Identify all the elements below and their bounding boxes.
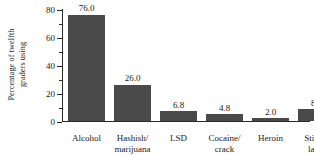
x-axis-line bbox=[62, 121, 310, 122]
y-tick-label-0: 0 bbox=[51, 117, 56, 126]
x-category-label-lsd: LSD bbox=[170, 133, 187, 144]
bar-alcohol bbox=[68, 15, 105, 121]
x-category-label-stimulants: Stimu- lants bbox=[304, 133, 314, 154]
x-category-label-cocaine-crack-line-2: crack bbox=[209, 144, 241, 155]
plot-area: 80 60 40 20 0 bbox=[62, 9, 310, 122]
y-axis-title: Percentage of twelfth graders using bbox=[0, 0, 34, 128]
x-category-label-lsd-line-1: LSD bbox=[170, 133, 187, 144]
bar-cocaine-crack bbox=[206, 114, 243, 121]
bar-value-cocaine-crack: 4.8 bbox=[219, 104, 230, 113]
bar-value-hashish-marijuana: 26.0 bbox=[125, 74, 141, 83]
y-axis-line bbox=[62, 9, 63, 122]
x-category-label-stimulants-line-2: lants bbox=[304, 144, 314, 155]
y-axis-title-line-1: Percentage of twelfth bbox=[7, 28, 18, 100]
y-tick-label-20: 20 bbox=[46, 89, 55, 98]
x-category-label-alcohol-line-1: Alcohol bbox=[72, 133, 101, 144]
x-category-label-heroin-line-1: Heroin bbox=[258, 133, 283, 144]
y-tick-label-80: 80 bbox=[46, 5, 55, 14]
x-category-label-cocaine-crack: Cocaine/ crack bbox=[209, 133, 241, 154]
x-category-label-heroin: Heroin bbox=[258, 133, 283, 144]
y-axis-title-line-2: graders using bbox=[17, 28, 28, 100]
x-category-label-hashish-marijuana: Hashish/ marijuana bbox=[115, 133, 151, 154]
bar-value-heroin: 2.0 bbox=[265, 108, 276, 117]
bar-heroin bbox=[252, 118, 289, 121]
x-category-label-hashish-marijuana-line-2: marijuana bbox=[115, 144, 151, 155]
bar-value-lsd: 6.8 bbox=[173, 101, 184, 110]
bar-value-stimulants: 8.4 bbox=[311, 99, 314, 108]
bar-hashish-marijuana bbox=[114, 85, 151, 121]
y-tick-label-60: 60 bbox=[46, 33, 55, 42]
x-category-label-cocaine-crack-line-1: Cocaine/ bbox=[209, 133, 241, 144]
x-category-label-hashish-marijuana-line-1: Hashish/ bbox=[115, 133, 151, 144]
bar-chart-figure: Percentage of twelfth graders using 80 6… bbox=[0, 0, 314, 155]
bar-stimulants-real bbox=[298, 109, 314, 121]
x-category-label-alcohol: Alcohol bbox=[72, 133, 101, 144]
bar-value-alcohol: 76.0 bbox=[79, 4, 95, 13]
bar-lsd bbox=[160, 111, 197, 121]
y-tick-label-40: 40 bbox=[46, 61, 55, 70]
x-category-label-stimulants-line-1: Stimu- bbox=[304, 133, 314, 144]
